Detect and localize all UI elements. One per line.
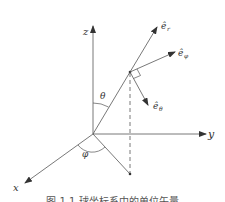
projection-line bbox=[93, 134, 130, 174]
theta-label: θ bbox=[100, 91, 106, 101]
z-axis-label: z bbox=[82, 26, 89, 37]
svg-text:ê: ê bbox=[153, 101, 158, 111]
unit-vector-phi-arrow bbox=[130, 52, 175, 72]
x-axis-label: x bbox=[13, 182, 19, 193]
theta-angle-arc bbox=[93, 103, 109, 107]
svg-text:θ: θ bbox=[159, 105, 163, 112]
spherical-coordinates-diagram: z y x ê r ê φ ê θ θ φ bbox=[0, 0, 225, 202]
right-angle-marker bbox=[134, 69, 141, 79]
phi-label: φ bbox=[82, 149, 89, 159]
svg-text:φ: φ bbox=[184, 52, 189, 60]
y-axis-label: y bbox=[207, 128, 215, 141]
unit-vector-r-arrow bbox=[130, 27, 157, 72]
unit-vector-r-label: ê r bbox=[161, 21, 171, 32]
unit-vector-theta-label: ê θ bbox=[153, 101, 163, 112]
projected-point bbox=[129, 173, 132, 176]
svg-text:ê: ê bbox=[178, 48, 183, 58]
unit-vector-theta-arrow bbox=[130, 72, 148, 105]
figure-caption: 图 1.1 球坐标系中的单位矢量 bbox=[0, 193, 225, 202]
radius-vector bbox=[93, 72, 130, 134]
unit-vector-phi-label: ê φ bbox=[178, 48, 189, 60]
svg-text:r: r bbox=[167, 25, 171, 32]
svg-text:ê: ê bbox=[161, 21, 166, 31]
